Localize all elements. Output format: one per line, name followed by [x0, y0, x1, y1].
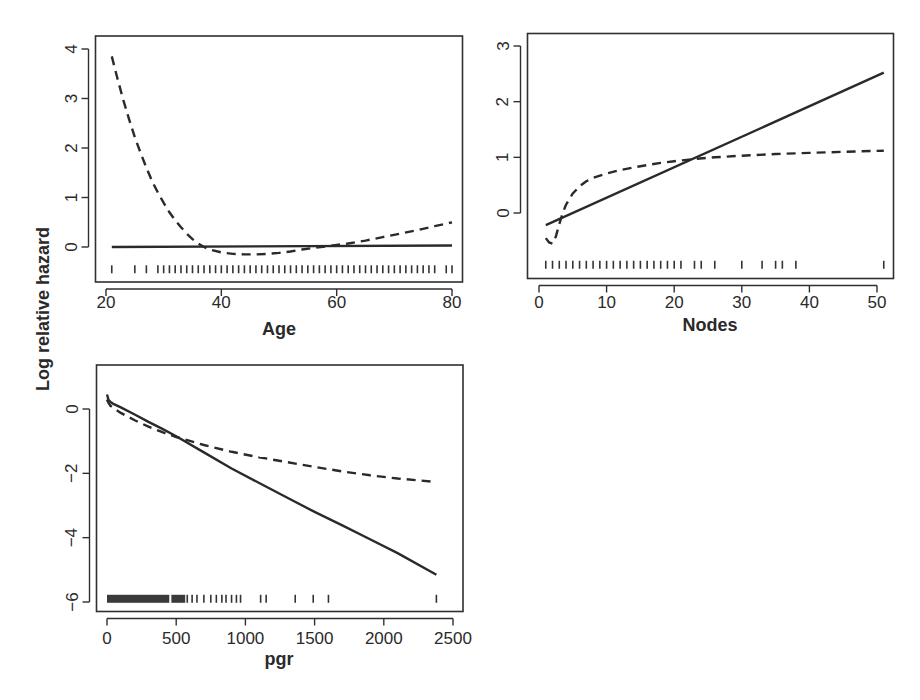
y-tick-label: 3	[62, 94, 81, 103]
series-linear-nodes	[546, 73, 884, 226]
x-tick-label: 2000	[365, 629, 403, 648]
y-tick-label: 0	[494, 208, 513, 217]
series-linear-pgr	[107, 395, 436, 575]
lines	[546, 73, 884, 244]
y-tick-label: 1	[494, 153, 513, 162]
panel-pgr: 05001000150020002500−6−4−20 pgr	[63, 365, 472, 669]
x-tick-label: 40	[212, 293, 231, 312]
series-spline-nodes	[546, 151, 884, 244]
y-axis-label: Log relative hazard	[33, 227, 53, 391]
x-tick-label: 60	[327, 293, 346, 312]
plot-frame	[528, 34, 894, 279]
x-tick-label: 2500	[434, 629, 472, 648]
series-spline-pgr	[107, 399, 436, 482]
x-tick-label: 0	[534, 293, 543, 312]
x-axis-label-age: Age	[262, 319, 296, 339]
x-tick-label: 20	[665, 293, 684, 312]
x-tick-label: 80	[443, 293, 462, 312]
figure: Log relative hazard 2040608001234 Age 01…	[0, 0, 920, 700]
y-tick-label: −2	[63, 464, 82, 483]
x-tick-label: 20	[97, 293, 116, 312]
x-tick-label: 1000	[226, 629, 264, 648]
y-tick-label: 3	[494, 41, 513, 50]
y-tick-label: 0	[63, 404, 82, 413]
x-tick-label: 50	[868, 293, 887, 312]
y-tick-label: 0	[62, 242, 81, 251]
x-tick-label: 40	[800, 293, 819, 312]
y-tick-label: 1	[62, 193, 81, 202]
rug	[112, 265, 452, 273]
series-linear-age	[112, 246, 452, 248]
lines	[112, 56, 452, 254]
y-tick-label: 2	[494, 97, 513, 106]
x-axis-label-pgr: pgr	[265, 649, 294, 669]
panel-age: 2040608001234 Age	[62, 36, 463, 339]
x-tick-label: 30	[732, 293, 751, 312]
x-tick-label: 10	[597, 293, 616, 312]
rug-dense-band	[171, 595, 185, 603]
plot-frame	[97, 365, 464, 612]
rug-dense-band	[107, 595, 169, 603]
y-tick-label: −6	[63, 592, 82, 611]
ticks: 010203040500123	[494, 41, 887, 312]
x-axis-label-nodes: Nodes	[682, 315, 737, 335]
x-tick-label: 500	[162, 629, 190, 648]
lines	[107, 395, 436, 575]
y-tick-label: 4	[62, 44, 81, 53]
rug	[107, 595, 436, 603]
y-tick-label: −4	[63, 528, 82, 547]
panel-nodes: 010203040500123 Nodes	[494, 34, 894, 336]
rug	[546, 261, 884, 269]
x-tick-label: 0	[102, 629, 111, 648]
x-tick-label: 1500	[296, 629, 334, 648]
y-tick-label: 2	[62, 143, 81, 152]
series-spline-age	[112, 56, 452, 254]
